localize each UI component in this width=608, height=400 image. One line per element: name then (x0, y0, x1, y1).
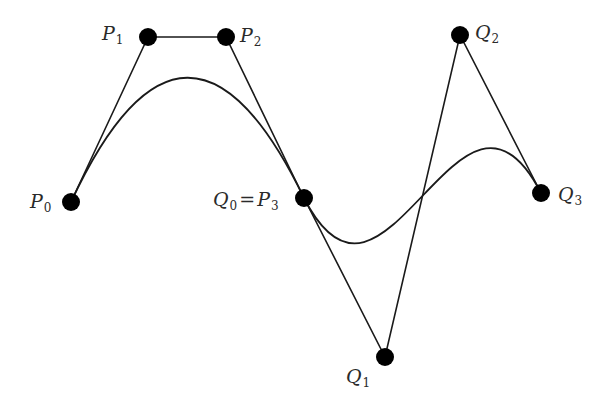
bezier-curves (71, 78, 541, 244)
label-letter: Q (558, 183, 574, 205)
label-equals: = (239, 188, 255, 210)
label-letter: Q (346, 365, 362, 387)
control-point-p2 (217, 28, 235, 46)
bezier-curve-p (71, 78, 304, 202)
label-subscript: 3 (575, 194, 583, 208)
label-p2: P2 (240, 26, 261, 48)
label-letter: P (30, 190, 43, 212)
label-q1: Q1 (346, 367, 370, 389)
label-q3: Q3 (558, 185, 582, 207)
bezier-curve-q (304, 148, 541, 243)
label-letter: Q (475, 21, 491, 43)
label-subscript: 1 (363, 376, 371, 390)
bezier-diagram: P0 P1 P2 Q0=P3 Q1 Q2 Q3 (0, 0, 608, 400)
control-point-q1 (376, 348, 394, 366)
label-letter: Q (213, 188, 229, 210)
control-point-p1 (139, 28, 157, 46)
label-q0-equals-p3: Q0=P3 (213, 190, 279, 212)
control-point-q2 (451, 26, 469, 44)
label-subscript: 0 (44, 201, 52, 215)
control-point-q3 (532, 184, 550, 202)
label-q2: Q2 (475, 23, 499, 45)
label-subscript: 2 (492, 32, 500, 46)
control-polygon-p (71, 37, 304, 202)
control-points (62, 26, 550, 366)
label-p0: P0 (30, 192, 51, 214)
bezier-diagram-graphic (0, 0, 608, 400)
label-letter: P (240, 24, 253, 46)
label-letter: P (257, 188, 270, 210)
label-subscript: 3 (271, 199, 279, 213)
control-point-p0 (62, 193, 80, 211)
control-point-p3 (295, 189, 313, 207)
label-subscript: 1 (116, 33, 124, 47)
label-letter: P (102, 22, 115, 44)
label-subscript: 0 (230, 199, 238, 213)
label-p1: P1 (102, 24, 123, 46)
label-subscript: 2 (254, 35, 262, 49)
